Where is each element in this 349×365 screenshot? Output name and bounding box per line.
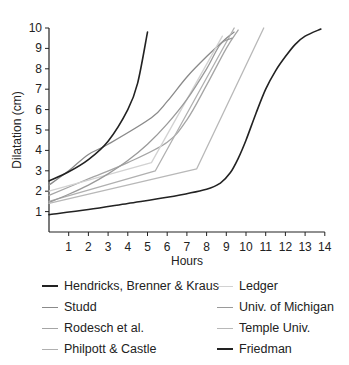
legend-swatch [42, 328, 58, 329]
legend-label: Univ. of Michigan [239, 300, 334, 314]
y-tick-label: 7 [35, 82, 42, 96]
y-tick-label: 2 [35, 184, 42, 198]
x-tick-label: 1 [65, 240, 72, 254]
legend-swatch [42, 307, 58, 308]
x-tick-label: 5 [144, 240, 151, 254]
legend-item: Univ. of Michigan [217, 297, 334, 317]
x-tick-label: 3 [105, 240, 112, 254]
x-tick-label: 4 [124, 240, 131, 254]
x-tick-label: 9 [223, 240, 230, 254]
legend-swatch [217, 307, 233, 308]
legend-label: Friedman [239, 342, 292, 356]
x-tick-label: 10 [239, 240, 253, 254]
legend-label: Hendricks, Brenner & Kraus [64, 279, 219, 293]
series-line-temple-univ [49, 28, 264, 203]
legend-item: Ledger [217, 276, 278, 296]
series-line-hendricks-brenner-kraus [49, 32, 148, 181]
legend-item: Hendricks, Brenner & Kraus [42, 276, 219, 296]
y-tick-label: 8 [35, 62, 42, 76]
y-tick-label: 5 [35, 123, 42, 137]
chart-plot: 123456789101234567891011121314 Dilatatio… [0, 0, 349, 270]
y-axis-title: Dilatation (cm) [10, 91, 24, 168]
series-line-studd [49, 32, 234, 185]
legend-item: Friedman [217, 339, 292, 359]
legend-label: Studd [64, 300, 97, 314]
y-tick-label: 4 [35, 143, 42, 157]
x-axis-title: Hours [171, 254, 203, 268]
legend-swatch [42, 349, 58, 350]
legend-item: Rodesch et al. [42, 318, 144, 338]
y-tick-label: 6 [35, 103, 42, 117]
legend-label: Ledger [239, 279, 278, 293]
x-tick-label: 11 [259, 240, 272, 254]
legend-swatch [217, 328, 233, 329]
y-tick-label: 3 [35, 164, 42, 178]
x-tick-label: 12 [279, 240, 293, 254]
legend-label: Temple Univ. [239, 321, 310, 335]
x-tick-label: 8 [203, 240, 210, 254]
legend-swatch [42, 285, 58, 287]
y-tick-label: 1 [35, 205, 42, 219]
y-tick-label: 10 [29, 21, 43, 35]
series-line-philpott-castle [49, 28, 234, 201]
legend-item: Studd [42, 297, 97, 317]
legend-label: Philpott & Castle [64, 342, 156, 356]
x-tick-label: 7 [184, 240, 191, 254]
legend-item: Philpott & Castle [42, 339, 156, 359]
x-tick-label: 2 [85, 240, 92, 254]
series-line-univ-of-michigan [49, 38, 232, 202]
series-lines [49, 28, 321, 215]
y-tick-label: 9 [35, 41, 42, 55]
legend-swatch [217, 348, 233, 350]
legend-item: Temple Univ. [217, 318, 310, 338]
legend-swatch [217, 286, 233, 287]
x-tick-label: 14 [318, 240, 332, 254]
x-tick-label: 6 [164, 240, 171, 254]
x-tick-label: 13 [298, 240, 312, 254]
legend-label: Rodesch et al. [64, 321, 144, 335]
